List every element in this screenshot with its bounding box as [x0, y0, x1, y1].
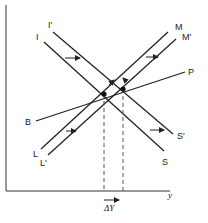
label-i: I: [36, 32, 39, 42]
delta-y-label: ΔY: [103, 203, 115, 213]
label-l-prime: L': [40, 158, 47, 168]
label-b: B: [25, 117, 31, 127]
equilibrium-point-1: [101, 91, 106, 96]
label-m: M: [175, 22, 183, 32]
label-i-prime: I': [48, 20, 53, 30]
label-p: P: [188, 67, 194, 77]
equilibrium-point-2: [120, 86, 125, 91]
label-s-prime: S': [177, 131, 185, 141]
lm-shifted-curve: [48, 39, 176, 155]
label-l: L: [33, 149, 38, 159]
equilibrium-arrow-2-icon: [123, 78, 127, 82]
x-axis-label: y: [167, 190, 172, 200]
label-s: S: [162, 157, 168, 167]
bp-curve: [36, 72, 185, 121]
diagram-canvas: I I' S S' M M' L L' B P y ΔY: [0, 0, 208, 223]
label-m-prime: M': [182, 32, 191, 42]
